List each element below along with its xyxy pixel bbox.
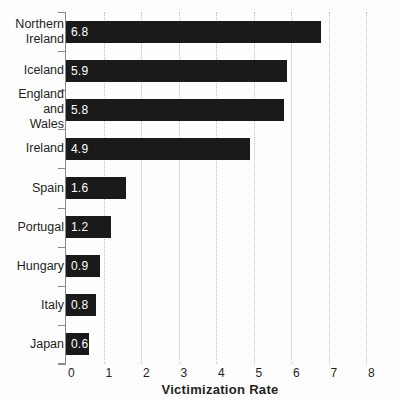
bar-northern-ireland (66, 21, 321, 43)
category-label-iceland: Iceland (0, 63, 64, 78)
plot-area: 6.85.95.84.91.61.20.90.80.6 (66, 12, 366, 364)
bar-value-label: 5.8 (71, 99, 88, 121)
bar-value-label: 0.6 (71, 333, 88, 355)
gridline-6 (291, 12, 293, 364)
bar-value-label: 1.6 (71, 177, 88, 199)
category-label-spain: Spain (0, 181, 64, 196)
x-tick-label-1: 1 (106, 366, 113, 380)
x-tick-label-5: 5 (256, 366, 263, 380)
bar-value-label: 0.8 (71, 294, 88, 316)
x-tick-label-7: 7 (331, 366, 338, 380)
x-tick-label-0: 0 (68, 366, 75, 380)
category-label-italy: Italy (0, 298, 64, 313)
gridline-8 (366, 12, 368, 364)
y-axis-tick (58, 286, 66, 287)
x-tick-label-4: 4 (218, 366, 225, 380)
y-axis-tick (58, 247, 66, 248)
bar-iceland (66, 60, 287, 82)
y-axis-tick (58, 12, 66, 13)
bar-value-label: 6.8 (71, 21, 88, 43)
bar-value-label: 1.2 (71, 216, 88, 238)
y-axis-tick (58, 51, 66, 52)
y-axis-tick (58, 325, 66, 326)
x-tick-label-6: 6 (293, 366, 300, 380)
category-label-england-and-wales: England and Wales (0, 87, 64, 132)
category-label-ireland: Ireland (0, 141, 64, 156)
y-axis-tick (58, 208, 66, 209)
x-tick-label-8: 8 (368, 366, 375, 380)
bar-value-label: 4.9 (71, 138, 88, 160)
category-label-portugal: Portugal (0, 220, 64, 235)
x-tick-label-2: 2 (143, 366, 150, 380)
bar-ireland (66, 138, 250, 160)
category-label-northern-ireland: Northern Ireland (0, 17, 64, 47)
bar-value-label: 5.9 (71, 60, 88, 82)
x-tick-label-3: 3 (181, 366, 188, 380)
bar-england-and-wales (66, 99, 284, 121)
x-axis-title-text: Victimization Rate (161, 382, 278, 397)
category-label-hungary: Hungary (0, 259, 64, 274)
category-label-japan: Japan (0, 337, 64, 352)
x-axis-title: Victimization Rate (0, 382, 398, 397)
y-axis-line (65, 12, 66, 364)
bar-value-label: 0.9 (71, 255, 88, 277)
gridline-7 (329, 12, 331, 364)
y-axis-tick (58, 168, 66, 169)
victimization-rate-bar-chart: 6.85.95.84.91.61.20.90.80.6 Northern Ire… (0, 0, 398, 404)
y-axis-tick (58, 364, 66, 365)
